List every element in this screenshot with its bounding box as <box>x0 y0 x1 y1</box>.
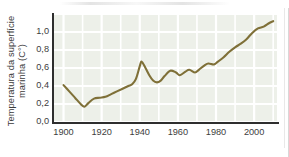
plot-svg <box>54 14 277 122</box>
x-tick-label: 1920 <box>91 127 111 137</box>
x-axis-ticks: 190019201940196019802000 <box>0 127 289 143</box>
chart-figure: Temperatura da superfície marinha (C°) 0… <box>0 0 289 157</box>
horizontal-gridlines <box>54 14 277 122</box>
y-tick-label: 0,8 <box>28 44 49 54</box>
y-axis-line <box>52 13 54 124</box>
x-tick-label: 1980 <box>206 127 226 137</box>
x-tick-label: 1940 <box>130 127 150 137</box>
y-tick-label: 1,0 <box>28 26 49 36</box>
x-axis-line <box>52 122 279 124</box>
temperature-series-line <box>64 21 274 107</box>
y-tick-label: 0,0 <box>28 116 49 126</box>
plot-area <box>54 14 277 122</box>
y-tick-label: 0,6 <box>28 62 49 72</box>
x-tick-label: 1960 <box>168 127 188 137</box>
y-tick-label: 0,4 <box>28 80 49 90</box>
x-tick-label: 2000 <box>244 127 264 137</box>
scan-artifact <box>60 2 230 5</box>
x-tick-label: 1900 <box>53 127 73 137</box>
y-axis-label: Temperatura da superfície marinha (C°) <box>6 11 28 131</box>
y-tick-label: 0,2 <box>28 98 49 108</box>
